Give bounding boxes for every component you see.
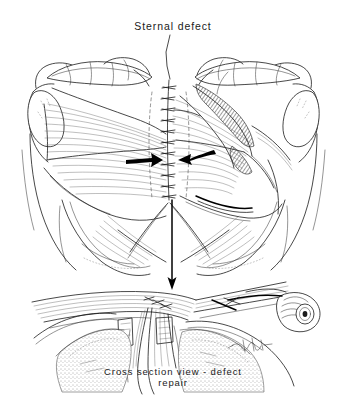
figure-caption-line-1: Cross section view - defect bbox=[104, 366, 242, 377]
figure-background bbox=[0, 0, 347, 398]
illustration-canvas: Sternal defect bbox=[0, 0, 347, 398]
figure-caption-line-2: repair bbox=[158, 377, 188, 388]
illustration-figure: Sternal defect bbox=[0, 0, 347, 398]
page-title: Sternal defect bbox=[134, 20, 211, 32]
